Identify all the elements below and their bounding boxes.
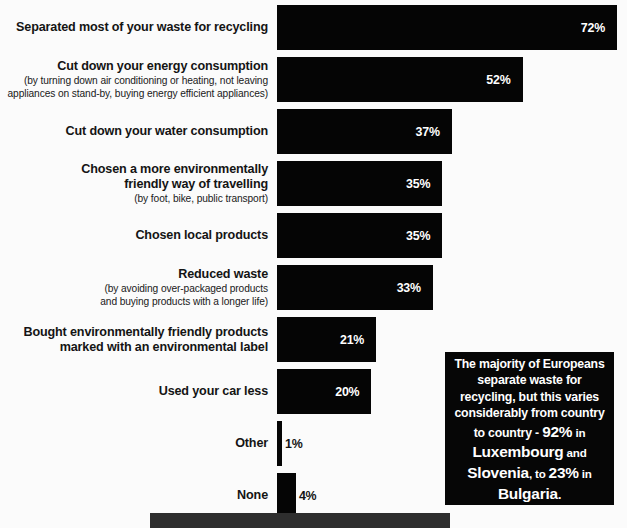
bar-category-label-line: marked with an environmental label [60,340,268,355]
bar-value-label: 52% [486,73,522,87]
callout-text-segment: Bulgaria [498,485,558,502]
bar: 37% [277,109,452,154]
bar-category-label-line: Bought environmentally friendly products [24,325,269,340]
callout-text-segment: 92% [542,423,572,440]
bar-category-label-line: Cut down your water consumption [66,124,268,139]
bar-row: Reduced waste(by avoiding over-packaged … [0,265,627,310]
callout-text-segment: , to [529,467,549,480]
bar-row: Separated most of your waste for recycli… [0,5,627,50]
bar-value-label: 21% [340,333,376,347]
bar-category-sublabel-line: (by foot, bike, public transport) [134,193,268,205]
bar-category-label-line: Used your car less [159,384,268,399]
bar: 35% [277,213,442,258]
bar-category-sublabel-line: (by avoiding over-packaged products [104,283,268,295]
bar-category-label: Used your car less [0,369,268,414]
bar-category-label: None [0,473,268,518]
bar-category-label-line: friendly way of travelling [124,177,268,192]
callout-text-segment: in [572,426,585,439]
bar: 52% [277,57,523,102]
bar-category-label: Reduced waste(by avoiding over-packaged … [0,265,268,310]
bar-category-label: Chosen a more environmentallyfriendly wa… [0,161,268,206]
bar-value-label: 37% [416,125,452,139]
bar-value-label: 35% [406,177,442,191]
bar: 1% [277,421,282,466]
bar-row: Cut down your water consumption37% [0,109,627,154]
bar-value-label: 72% [581,21,617,35]
callout-text-segment: in [579,467,592,480]
bar: 21% [277,317,376,362]
bar-row: Chosen local products35% [0,213,627,258]
horizontal-bar-chart: Separated most of your waste for recycli… [0,0,627,528]
callout-text-segment: 23% [549,464,579,481]
callout-text-segment: . [558,488,561,502]
bar-category-label-line: Chosen a more environmentally [81,162,268,177]
bottom-section-strip [150,513,450,528]
callout-text: The majority of Europeans separate waste… [454,356,605,504]
bar-category-label-line: Chosen local products [135,228,268,243]
bar: 4% [277,473,296,518]
bar-category-sublabel-line: appliances on stand-by, buying energy ef… [8,88,268,100]
bar-category-sublabel-line: (by turning down air conditioning or hea… [24,75,268,87]
bar-category-label-line: Reduced waste [178,267,268,282]
bar-category-label: Cut down your energy consumption(by turn… [0,57,268,102]
bar-category-label: Other [0,421,268,466]
bar: 20% [277,369,371,414]
bar-category-label-line: Separated most of your waste for recycli… [16,20,268,35]
bar-value-label: 4% [296,489,317,503]
bar-row: Chosen a more environmentallyfriendly wa… [0,161,627,206]
bar-category-label: Bought environmentally friendly products… [0,317,268,362]
bar-category-label-line: Cut down your energy consumption [57,59,268,74]
bar-category-label: Cut down your water consumption [0,109,268,154]
callout-text-segment: Slovenia [467,464,529,481]
bar-value-label: 35% [406,229,442,243]
bar: 33% [277,265,433,310]
callout-box: The majority of Europeans separate waste… [445,352,614,505]
bar-row: Cut down your energy consumption(by turn… [0,57,627,102]
bar-category-label-line: Other [235,436,268,451]
bar-category-label-line: None [237,488,268,503]
bar-value-label: 20% [335,385,371,399]
bar-category-label: Chosen local products [0,213,268,258]
bar: 72% [277,5,617,50]
bar-category-label: Separated most of your waste for recycli… [0,5,268,50]
callout-text-segment: and [564,446,587,459]
bar-category-sublabel-line: and buying products with a longer life) [100,296,268,308]
callout-text-segment: Luxembourg [472,443,563,460]
bar-value-label: 33% [397,281,433,295]
bar-value-label: 1% [282,437,303,451]
bar: 35% [277,161,442,206]
